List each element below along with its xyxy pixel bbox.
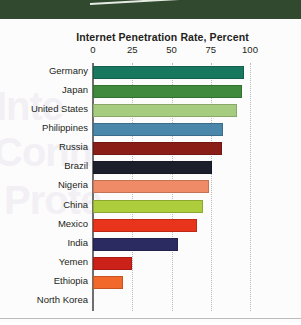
page-root: Inte Conn Prote Internet Penetration Rat…: [0, 0, 301, 325]
x-tick-label: 100: [242, 44, 258, 55]
chart-title: Internet Penetration Rate, Percent: [0, 31, 301, 43]
gridline-100: [250, 63, 251, 311]
bar-row[interactable]: North Korea: [93, 292, 250, 311]
bar[interactable]: [93, 123, 223, 136]
bar[interactable]: [93, 219, 197, 232]
bar-row[interactable]: Philippines: [93, 120, 250, 139]
bar-row[interactable]: Yemen: [93, 254, 250, 273]
bar[interactable]: [93, 142, 222, 155]
footer-rule: [0, 318, 301, 319]
bar[interactable]: [93, 200, 203, 213]
category-label: Nigeria: [58, 179, 88, 190]
x-tick-label: 50: [166, 44, 177, 55]
x-tick-label: 25: [127, 44, 138, 55]
bar[interactable]: [93, 161, 212, 174]
bar[interactable]: [93, 85, 242, 98]
bar-row[interactable]: Russia: [93, 139, 250, 158]
bar-chart: Internet Penetration Rate, Percent 02550…: [0, 19, 301, 319]
bar[interactable]: [93, 66, 244, 79]
x-tick-label: 0: [90, 44, 95, 55]
category-label: Germany: [49, 65, 88, 76]
page-header-band: [0, 0, 301, 19]
bar[interactable]: [93, 257, 132, 270]
bar-row[interactable]: United States: [93, 101, 250, 120]
category-label: India: [67, 237, 88, 248]
category-label: Brazil: [64, 160, 88, 171]
header-stripe-cap: [88, 12, 94, 18]
category-label: Mexico: [58, 218, 88, 229]
category-label: Philippines: [42, 122, 88, 133]
plot-area: 0255075100GermanyJapanUnited StatesPhili…: [93, 63, 250, 311]
bar[interactable]: [93, 180, 209, 193]
category-label: Russia: [59, 141, 88, 152]
bar-row[interactable]: India: [93, 235, 250, 254]
bar-row[interactable]: Ethiopia: [93, 273, 250, 292]
x-tick-label: 75: [205, 44, 216, 55]
header-diagonal-stripe: [90, 0, 301, 5]
bar-row[interactable]: Brazil: [93, 158, 250, 177]
category-label: North Korea: [37, 294, 88, 305]
bar[interactable]: [93, 276, 123, 289]
category-label: Japan: [62, 84, 88, 95]
category-label: Ethiopia: [54, 275, 88, 286]
bar-row[interactable]: Nigeria: [93, 177, 250, 196]
bar[interactable]: [93, 238, 178, 251]
bar-row[interactable]: Japan: [93, 82, 250, 101]
bar-row[interactable]: Mexico: [93, 216, 250, 235]
category-label: China: [63, 199, 88, 210]
category-label: United States: [31, 103, 88, 114]
bar[interactable]: [93, 104, 237, 117]
bar-row[interactable]: China: [93, 197, 250, 216]
bar-row[interactable]: Germany: [93, 63, 250, 82]
category-label: Yemen: [59, 256, 88, 267]
